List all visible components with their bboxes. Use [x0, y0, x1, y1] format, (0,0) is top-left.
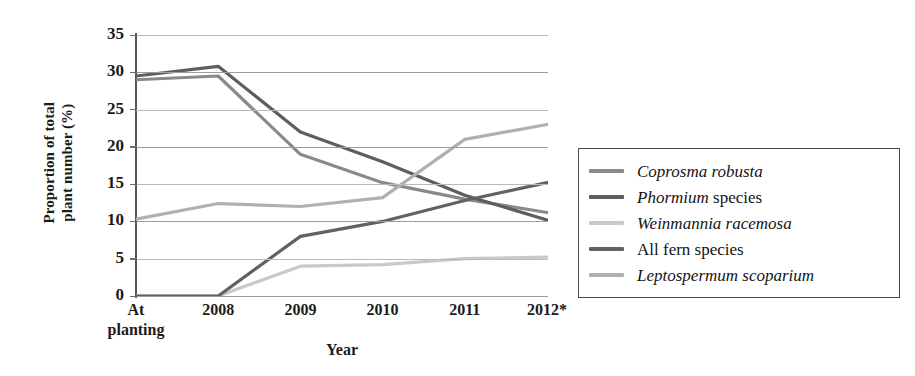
legend-item[interactable]: Coprosma robusta [589, 158, 889, 184]
gridlines [136, 35, 548, 296]
y-axis-tick-label: 20 [84, 136, 124, 156]
legend-label-roman: All fern species [637, 240, 744, 259]
figure-container: Proportion of total plant number (%) 051… [0, 0, 915, 376]
y-axis-tick [130, 221, 137, 222]
x-axis-tick-label-line-2: planting [91, 320, 181, 340]
legend-swatch-line-icon [589, 169, 624, 173]
legend-label: Weinmannia racemosa [637, 215, 792, 232]
gridline [136, 221, 548, 222]
legend-label: Phormium species [637, 189, 762, 206]
x-axis-tick-label: 2010 [338, 300, 428, 320]
x-axis-tick-label: 2012* [502, 300, 592, 320]
x-axis-tick-label: 2009 [255, 300, 345, 320]
legend-label: Leptospermum scoparium [637, 267, 814, 284]
y-axis-tick-label: 5 [84, 248, 124, 268]
x-axis-tick-label: Atplanting [91, 300, 181, 340]
legend-label-italic: Leptospermum scoparium [637, 266, 814, 285]
gridline [136, 296, 548, 297]
plot-area: 05101520253035 [136, 35, 548, 296]
x-axis-labels: Atplanting20082009201020112012* [136, 300, 548, 370]
gridline [136, 72, 548, 73]
y-axis-tick-label: 15 [84, 173, 124, 193]
legend-label-italic: Coprosma robusta [637, 162, 763, 181]
x-axis-tick-label-line-1: 2012* [527, 301, 567, 318]
legend-label-italic: Weinmannia racemosa [637, 214, 792, 233]
y-axis-tick-label: 25 [84, 99, 124, 119]
gridline [136, 147, 548, 148]
x-axis-tick-label: 2011 [420, 300, 510, 320]
y-axis-title-line-2: plant number (%) [59, 18, 77, 308]
y-axis-tick [130, 184, 137, 185]
legend-item[interactable]: Weinmannia racemosa [589, 210, 889, 236]
y-axis-title: Proportion of total plant number (%) [41, 18, 76, 308]
y-axis-tick [130, 258, 137, 259]
legend-label-roman: species [709, 188, 762, 207]
y-axis-tick-label: 10 [84, 210, 124, 230]
legend-swatch-line-icon [589, 247, 624, 251]
x-axis-tick-label-line-1: 2010 [367, 301, 399, 318]
legend: Coprosma robustaPhormium speciesWeinmann… [578, 148, 900, 298]
y-axis-tick [130, 296, 137, 297]
y-axis-tick [130, 109, 137, 110]
y-axis-tick [130, 146, 137, 147]
legend-item[interactable]: All fern species [589, 236, 889, 262]
x-axis-tick-label-line-1: 2009 [284, 301, 316, 318]
x-axis-title: Year [136, 341, 548, 359]
y-axis-tick [130, 72, 137, 73]
gridline [136, 259, 548, 260]
legend-label: Coprosma robusta [637, 163, 763, 180]
x-axis-tick-label-line-1: 2011 [449, 301, 480, 318]
legend-item[interactable]: Leptospermum scoparium [589, 262, 889, 288]
gridline [136, 35, 548, 36]
legend-label-italic: Phormium [637, 188, 709, 207]
gridline [136, 184, 548, 185]
legend-swatch-line-icon [589, 195, 624, 199]
legend-swatch-line-icon [589, 273, 624, 277]
y-axis-tick-label: 35 [84, 24, 124, 44]
x-axis-tick-label: 2008 [173, 300, 263, 320]
legend-label: All fern species [637, 241, 744, 258]
x-axis-tick-label-line-1: 2008 [202, 301, 234, 318]
gridline [136, 110, 548, 111]
legend-swatch-line-icon [589, 221, 624, 225]
legend-item[interactable]: Phormium species [589, 184, 889, 210]
x-axis-tick-label-line-1: At [128, 301, 145, 318]
y-axis-tick-label: 30 [84, 61, 124, 81]
y-axis-tick [130, 35, 137, 36]
y-axis-title-line-1: Proportion of total [41, 18, 59, 308]
